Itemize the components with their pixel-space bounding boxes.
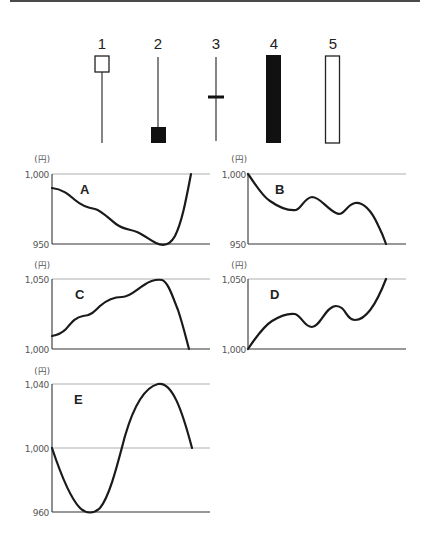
candle-4: 4 [266,35,281,143]
chart-b: (円) 1,000 950 B [222,154,406,250]
svg-text:950: 950 [230,240,247,250]
svg-text:1,000: 1,000 [25,444,50,454]
svg-text:(円): (円) [34,260,50,270]
svg-text:950: 950 [33,240,50,250]
svg-text:1,050: 1,050 [222,275,247,285]
svg-text:(円): (円) [231,154,247,164]
candle-1: 1 [95,35,109,143]
chart-a: (円) 1,000 950 A [25,154,210,250]
candle-label: 3 [212,35,220,52]
svg-text:960: 960 [33,508,50,518]
chart-c: (円) 1,050 1,000 C [25,260,210,355]
svg-text:1,000: 1,000 [25,170,50,180]
chart-label: A [80,182,90,197]
chart-label: B [275,182,284,197]
candle-label: 1 [98,35,106,52]
candle-3: 3 [208,35,224,141]
chart-label: C [75,287,85,302]
svg-text:(円): (円) [34,154,50,164]
figure-canvas: 1 2 3 4 5 (円) 1,000 950 A (円) 1,000 950 [0,0,428,538]
candle-5: 5 [326,35,340,143]
svg-text:(円): (円) [231,260,247,270]
svg-text:1,000: 1,000 [222,345,247,355]
candle-2: 2 [151,35,166,143]
candle-label: 5 [329,35,337,52]
chart-label: E [74,392,83,407]
svg-text:1,050: 1,050 [25,275,50,285]
svg-text:(円): (円) [34,366,50,376]
chart-d: (円) 1,050 1,000 D [222,260,406,355]
chart-label: D [270,287,279,302]
candle-label: 2 [154,35,162,52]
candle-label: 4 [270,35,278,52]
svg-text:1,000: 1,000 [25,345,50,355]
chart-e: (円) 1,040 1,000 960 E [25,366,210,518]
svg-text:1,000: 1,000 [222,170,247,180]
svg-text:1,040: 1,040 [25,380,50,390]
